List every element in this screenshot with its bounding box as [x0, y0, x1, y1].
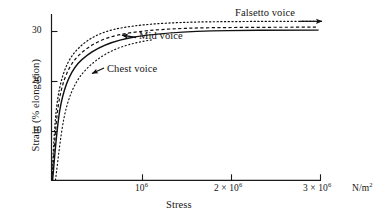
curve-mid-voice [52, 27, 318, 180]
y-tick-label-20: 20 [32, 76, 42, 86]
series-label-chest-voice: Chest voice [107, 64, 157, 75]
x-tick-label-1e6: 106 [135, 184, 148, 194]
series-label-falsetto-voice: Falsetto voice [235, 8, 295, 19]
stress-strain-chart: Strain (% elongation) 30 20 10 106 2 × 1… [0, 0, 392, 222]
y-tick-label-10: 10 [32, 126, 42, 136]
x-axis-ticks [143, 174, 321, 180]
axis-lines [51, 14, 321, 181]
x-tick-label-3e6: 3 × 106 [303, 184, 331, 194]
x-axis-unit-label: N/m2 [352, 184, 373, 194]
mid-voice-arrow-left-icon [122, 35, 136, 37]
y-axis-title-text: Strain (% elongation) [30, 59, 41, 152]
x-tick-label-2e6: 2 × 106 [214, 184, 242, 194]
plot-area [0, 0, 392, 222]
y-tick-label-30: 30 [32, 26, 42, 36]
curve-lower-dotted [56, 40, 155, 180]
y-axis-title: Strain (% elongation) [31, 25, 42, 185]
series-label-mid-voice: Mid voice [139, 31, 183, 42]
curve-chest-voice [53, 30, 318, 180]
x-axis-title: Stress [166, 200, 192, 211]
chest-voice-arrow-left-icon [92, 68, 104, 74]
